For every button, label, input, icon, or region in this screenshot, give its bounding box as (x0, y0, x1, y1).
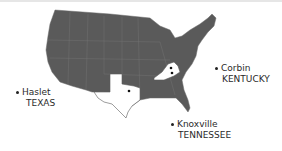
state-name: TENNESSEE (178, 130, 231, 141)
city-name: Knoxville (177, 119, 218, 129)
state-name: KENTUCKY (222, 74, 270, 85)
city-name: Haslet (22, 87, 51, 97)
location-knoxville: Knoxville TENNESSEE (171, 119, 231, 141)
marker-knoxville (171, 72, 174, 75)
marker-haslet (128, 90, 131, 93)
location-haslet: Haslet TEXAS (16, 87, 55, 109)
bullet-icon (171, 123, 174, 126)
bullet-icon (16, 91, 19, 94)
city-name: Corbin (221, 63, 250, 73)
marker-corbin (170, 67, 173, 70)
state-name: TEXAS (26, 98, 55, 109)
bullet-icon (215, 67, 218, 70)
location-corbin: Corbin KENTUCKY (215, 63, 270, 85)
